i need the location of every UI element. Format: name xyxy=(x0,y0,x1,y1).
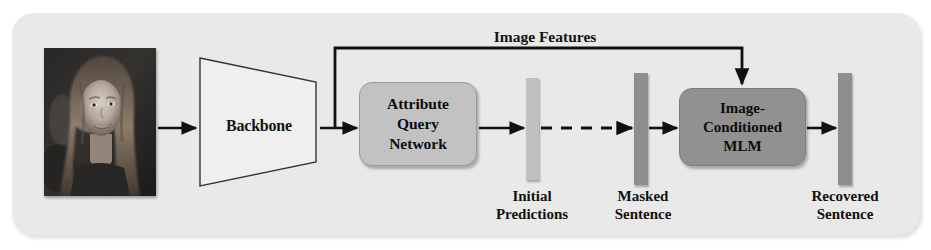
initial-predictions-bar xyxy=(526,78,539,180)
attribute-query-network-node: Attribute Query Network xyxy=(359,82,477,166)
diagram-canvas: Backbone Attribute Query Network Image- … xyxy=(0,0,931,250)
aqn-label-line3: Network xyxy=(387,134,449,154)
backbone-label: Backbone xyxy=(198,118,320,134)
face-photo-input xyxy=(44,48,156,196)
recovered-sentence-caption-line1: Recovered xyxy=(765,187,925,205)
recovered-sentence-caption: Recovered Sentence xyxy=(765,187,925,223)
image-conditioned-mlm-node: Image- Conditioned MLM xyxy=(679,88,806,166)
recovered-sentence-caption-line2: Sentence xyxy=(765,205,925,223)
image-features-label: Image Features xyxy=(400,28,690,46)
masked-sentence-caption: Masked Sentence xyxy=(563,187,723,223)
aqn-label-line1: Attribute xyxy=(387,94,449,114)
masked-sentence-bar xyxy=(634,73,648,185)
recovered-sentence-bar xyxy=(838,73,852,185)
mlm-label-line3: MLM xyxy=(703,137,782,156)
masked-sentence-caption-line2: Sentence xyxy=(563,205,723,223)
mlm-label-line1: Image- xyxy=(703,99,782,118)
aqn-label-line2: Query xyxy=(387,114,449,134)
masked-sentence-caption-line1: Masked xyxy=(563,187,723,205)
mlm-label-line2: Conditioned xyxy=(703,118,782,137)
